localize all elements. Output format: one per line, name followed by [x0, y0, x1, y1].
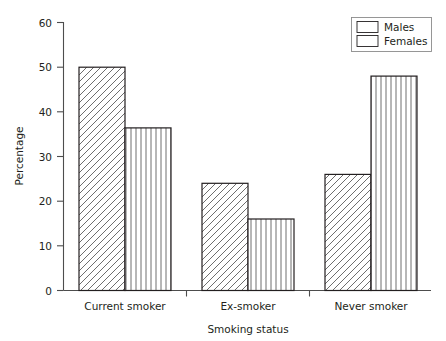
- y-tick-label-60: 60: [39, 17, 52, 29]
- legend-label-females: Females: [384, 35, 427, 47]
- y-tick-label-10: 10: [39, 240, 52, 252]
- y-tick-label-30: 30: [39, 151, 52, 163]
- legend: Males Females: [352, 18, 432, 52]
- x-category-label-2: Never smoker: [334, 300, 408, 312]
- bars-group: [79, 67, 417, 290]
- x-category-label-1: Ex-smoker: [220, 300, 276, 312]
- y-axis-title: Percentage: [13, 126, 25, 185]
- y-axis: 60 50 40 30 20 10 0 Percentage: [13, 17, 64, 297]
- y-tick-label-0: 0: [45, 285, 52, 297]
- bar-never-smoker-females: [371, 76, 417, 290]
- chart-canvas: 60 50 40 30 20 10 0 Percentage Current s…: [0, 0, 446, 341]
- bar-ex-smoker-males: [202, 183, 248, 290]
- bar-chart: 60 50 40 30 20 10 0 Percentage Current s…: [0, 0, 446, 341]
- legend-swatch-males: [357, 22, 378, 33]
- bar-current-smoker-females: [125, 128, 171, 291]
- legend-swatch-females: [357, 36, 378, 47]
- bar-never-smoker-males: [325, 174, 371, 290]
- y-tick-label-50: 50: [39, 61, 52, 73]
- y-tick-label-20: 20: [39, 195, 52, 207]
- x-axis-title: Smoking status: [207, 323, 288, 335]
- x-axis: Current smoker Ex-smoker Never smoker Sm…: [64, 291, 432, 336]
- y-tick-label-40: 40: [39, 106, 52, 118]
- legend-label-males: Males: [384, 21, 414, 33]
- x-category-label-0: Current smoker: [84, 300, 166, 312]
- bar-ex-smoker-females: [248, 219, 294, 291]
- bar-current-smoker-males: [79, 67, 125, 290]
